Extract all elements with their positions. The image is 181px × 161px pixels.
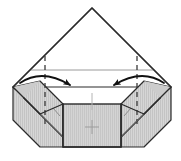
origami-diagram: Origami fold step diagram Square paper r… (0, 0, 181, 161)
origami-figure-svg (0, 0, 181, 161)
